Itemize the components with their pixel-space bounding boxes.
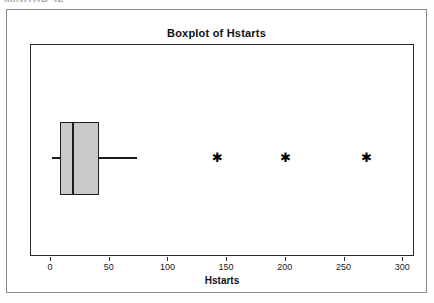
- x-axis-tick-label: 50: [94, 262, 124, 272]
- x-axis-tick: [167, 257, 168, 261]
- x-axis-tick-label: 250: [329, 262, 359, 272]
- boxplot-lower-whisker: [52, 157, 60, 159]
- boxplot-outlier-marker: ✱: [280, 152, 289, 163]
- figure-container: Boxplot of Hstarts ✱✱✱ 05010015020025030…: [6, 9, 427, 293]
- boxplot-outlier-marker: ✱: [212, 152, 221, 163]
- x-axis-title: Hstarts: [30, 275, 414, 286]
- boxplot-median-line: [72, 122, 74, 195]
- clipped-header-text: MINITAB 42: [4, 0, 64, 5]
- plot-frame: ✱✱✱: [30, 44, 414, 256]
- x-axis-tick: [402, 257, 403, 261]
- boxplot-outlier-marker: ✱: [361, 152, 370, 163]
- x-axis-tick-label: 200: [270, 262, 300, 272]
- chart-title: Boxplot of Hstarts: [7, 27, 426, 39]
- x-axis-tick: [344, 257, 345, 261]
- plot-surface: ✱✱✱: [31, 45, 413, 255]
- x-axis-tick-label: 100: [152, 262, 182, 272]
- x-axis-tick-label: 300: [387, 262, 417, 272]
- x-axis-tick: [109, 257, 110, 261]
- x-axis-tick: [50, 257, 51, 261]
- x-axis-tick: [226, 257, 227, 261]
- boxplot-box: [60, 122, 99, 195]
- x-axis-tick-label: 150: [211, 262, 241, 272]
- boxplot-upper-whisker: [99, 157, 137, 159]
- x-axis-tick: [285, 257, 286, 261]
- x-axis-tick-label: 0: [35, 262, 65, 272]
